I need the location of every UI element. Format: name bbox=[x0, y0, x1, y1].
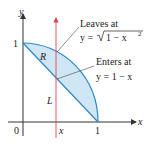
leaves-eq-exp: 2 bbox=[138, 30, 142, 38]
line-label-l: L bbox=[46, 95, 53, 106]
enters-title: Enters at bbox=[96, 56, 131, 67]
origin-label: 0 bbox=[14, 125, 19, 136]
x-axis-label: x bbox=[137, 116, 143, 127]
enters-eq: y = 1 − x bbox=[96, 71, 132, 82]
leaves-leader bbox=[57, 27, 79, 52]
x-marker-label: x bbox=[58, 125, 64, 136]
y-tick-1: 1 bbox=[13, 38, 18, 49]
x-tick-1: 1 bbox=[95, 125, 100, 136]
region-label-r: R bbox=[39, 51, 46, 62]
leaves-eq-prefix: y = bbox=[80, 32, 94, 43]
region-diagram: y x 1 0 1 x R L Leaves at y = 1 − x 2 En… bbox=[0, 0, 148, 150]
leaves-title: Leaves at bbox=[80, 18, 118, 29]
leaves-eq-radicand: 1 − x bbox=[106, 32, 127, 43]
y-axis-label: y bbox=[18, 6, 24, 17]
